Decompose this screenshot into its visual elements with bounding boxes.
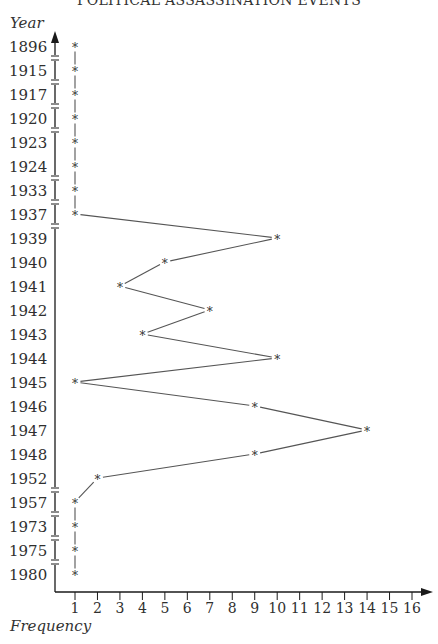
data-point-marker: * xyxy=(72,65,78,79)
x-tick: 5 xyxy=(160,592,169,616)
year-label: 1944 xyxy=(9,350,47,368)
x-tick-label: 16 xyxy=(403,600,421,616)
data-point-marker: * xyxy=(72,209,78,223)
axis-break-mark xyxy=(50,103,60,109)
data-point-marker: * xyxy=(72,545,78,559)
year-label: 1945 xyxy=(9,374,47,392)
x-tick: 3 xyxy=(115,592,124,616)
x-tick-label: 9 xyxy=(250,600,259,616)
axis-break-mark xyxy=(50,223,60,229)
x-tick: 6 xyxy=(183,592,192,616)
data-point-marker: * xyxy=(139,329,145,343)
year-label: 1896 xyxy=(9,38,47,56)
data-point-marker: * xyxy=(72,113,78,127)
data-point-marker: * xyxy=(72,89,78,103)
year-label: 1943 xyxy=(9,326,47,344)
axis-break-mark xyxy=(50,199,60,205)
x-tick-label: 14 xyxy=(358,600,376,616)
series-segment xyxy=(80,215,271,238)
axis-break-mark xyxy=(50,559,60,565)
data-point-marker: * xyxy=(274,353,280,367)
axis-break-mark xyxy=(50,487,60,493)
year-label: 1915 xyxy=(9,62,47,80)
axis-break-mark xyxy=(50,79,60,85)
y-axis xyxy=(51,31,59,592)
x-tick: 12 xyxy=(313,592,331,616)
year-label: 1946 xyxy=(9,398,47,416)
series-segment xyxy=(80,383,249,406)
frequency-chart: 12345678910111213141516 1896191519171920… xyxy=(0,0,438,644)
data-point-marker: * xyxy=(72,161,78,175)
year-label: 1952 xyxy=(9,470,47,488)
y-tick-labels: 1896191519171920192319241933193719391940… xyxy=(9,38,47,584)
series-segment xyxy=(125,265,160,284)
year-label: 1942 xyxy=(9,302,47,320)
x-tick-label: 12 xyxy=(313,600,331,616)
data-point-marker: * xyxy=(94,473,100,487)
x-tick-label: 2 xyxy=(93,600,102,616)
year-label: 1937 xyxy=(9,206,47,224)
series-segment xyxy=(79,482,94,498)
data-series xyxy=(75,52,362,569)
data-point-marker: * xyxy=(207,305,213,319)
x-tick-label: 5 xyxy=(160,600,169,616)
x-tick: 16 xyxy=(403,592,421,616)
x-tick: 11 xyxy=(291,592,309,616)
year-label: 1920 xyxy=(9,110,47,128)
x-tick: 10 xyxy=(268,592,286,616)
x-tick-label: 3 xyxy=(115,600,124,616)
series-segment xyxy=(80,359,271,382)
data-point-marker: * xyxy=(72,569,78,583)
axis-break-mark xyxy=(50,127,60,133)
data-point-marker: * xyxy=(72,185,78,199)
data-point-marker: * xyxy=(72,137,78,151)
series-segment xyxy=(148,312,205,332)
year-label: 1980 xyxy=(9,566,47,584)
x-tick-label: 15 xyxy=(381,600,399,616)
x-tick: 14 xyxy=(358,592,376,616)
x-tick-label: 13 xyxy=(336,600,354,616)
axis-break-mark xyxy=(50,175,60,181)
x-tick: 8 xyxy=(228,592,237,616)
year-label: 1940 xyxy=(9,254,47,272)
x-tick: 7 xyxy=(205,592,214,616)
data-markers: *********************** xyxy=(72,41,370,583)
x-tick: 15 xyxy=(381,592,399,616)
axis-break-mark xyxy=(50,55,60,61)
x-axis: 12345678910111213141516 xyxy=(55,588,433,616)
x-tick: 9 xyxy=(250,592,259,616)
year-label: 1957 xyxy=(9,494,47,512)
series-segment xyxy=(170,239,272,261)
data-point-marker: * xyxy=(364,425,370,439)
series-segment xyxy=(125,287,204,308)
x-tick-label: 11 xyxy=(291,600,309,616)
x-tick: 4 xyxy=(138,592,147,616)
x-tick: 13 xyxy=(336,592,354,616)
data-point-marker: * xyxy=(72,41,78,55)
x-tick-label: 7 xyxy=(205,600,214,616)
year-label: 1947 xyxy=(9,422,47,440)
x-tick-label: 4 xyxy=(138,600,147,616)
x-tick-label: 1 xyxy=(71,600,80,616)
year-label: 1924 xyxy=(9,158,47,176)
year-label: 1933 xyxy=(9,182,47,200)
year-label: 1917 xyxy=(9,86,47,104)
year-label: 1973 xyxy=(9,518,47,536)
series-segment xyxy=(148,335,272,357)
data-point-marker: * xyxy=(72,497,78,511)
data-point-marker: * xyxy=(72,377,78,391)
series-segment xyxy=(103,455,249,477)
x-tick: 2 xyxy=(93,592,102,616)
x-tick-label: 10 xyxy=(268,600,286,616)
year-label: 1939 xyxy=(9,230,47,248)
data-point-marker: * xyxy=(162,257,168,271)
data-point-marker: * xyxy=(72,521,78,535)
year-label: 1975 xyxy=(9,542,47,560)
data-point-marker: * xyxy=(117,281,123,295)
year-label: 1948 xyxy=(9,446,47,464)
axis-break-mark xyxy=(50,535,60,541)
series-segment xyxy=(260,407,362,429)
series-segment xyxy=(260,431,362,453)
axis-break-mark xyxy=(50,511,60,517)
year-label: 1923 xyxy=(9,134,47,152)
